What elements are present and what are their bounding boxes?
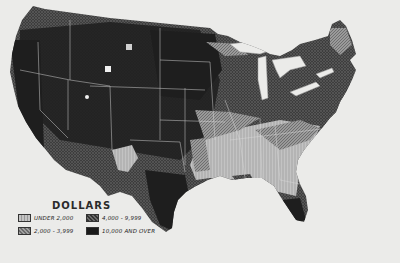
swatch-medium-icon	[18, 227, 31, 235]
swatch-dark-icon	[86, 214, 99, 222]
legend-item-10000-and-over: 10,000 AND OVER	[86, 227, 155, 235]
choropleth-map	[0, 0, 400, 263]
legend-item-2000-3999: 2,000 - 3,999	[18, 227, 74, 235]
legend-item-under-2000: UNDER 2,000	[18, 214, 73, 222]
swatch-black-icon	[86, 227, 99, 235]
legend-item-4000-9999: 4,000 - 9,999	[86, 214, 142, 222]
swatch-light-icon	[18, 214, 31, 222]
legend-title: DOLLARS	[52, 200, 111, 211]
